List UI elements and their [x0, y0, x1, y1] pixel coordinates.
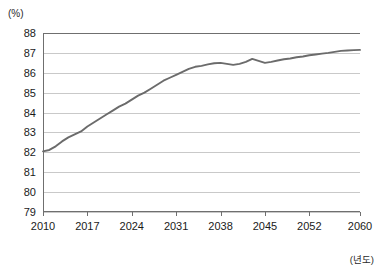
y-tick-label-88: 88 [2, 27, 36, 39]
y-axis-unit-label: (%) [8, 8, 24, 19]
y-tick-label-86: 86 [2, 67, 36, 79]
x-tick-mark-2010 [43, 212, 44, 216]
x-tick-label-2060: 2060 [348, 220, 372, 232]
x-tick-label-2017: 2017 [75, 220, 99, 232]
y-tick-label-81: 81 [2, 166, 36, 178]
x-tick-label-2052: 2052 [297, 220, 321, 232]
x-tick-label-2038: 2038 [208, 220, 232, 232]
y-tick-label-84: 84 [2, 107, 36, 119]
x-tick-label-2024: 2024 [120, 220, 144, 232]
x-tick-mark-2052 [309, 212, 310, 216]
x-axis-unit-label: (년도) [350, 252, 374, 266]
y-tick-label-79: 79 [2, 206, 36, 218]
x-tick-mark-2017 [87, 212, 88, 216]
x-tick-mark-2024 [132, 212, 133, 216]
data-series-layer [43, 33, 360, 212]
x-tick-mark-2060 [360, 212, 361, 216]
gridline-79 [43, 212, 360, 213]
line-chart-figure: (%) 88878685848382818079 201020172024203… [0, 0, 382, 275]
y-tick-label-82: 82 [2, 146, 36, 158]
y-tick-label-80: 80 [2, 186, 36, 198]
x-tick-mark-2031 [176, 212, 177, 216]
y-tick-label-83: 83 [2, 126, 36, 138]
plot-area [43, 33, 360, 212]
x-tick-mark-2045 [265, 212, 266, 216]
x-tick-label-2010: 2010 [31, 220, 55, 232]
x-tick-label-2031: 2031 [164, 220, 188, 232]
x-tick-label-2045: 2045 [253, 220, 277, 232]
y-tick-label-85: 85 [2, 87, 36, 99]
y-tick-label-87: 87 [2, 47, 36, 59]
x-tick-mark-2038 [221, 212, 222, 216]
series-line-path [43, 50, 360, 151]
